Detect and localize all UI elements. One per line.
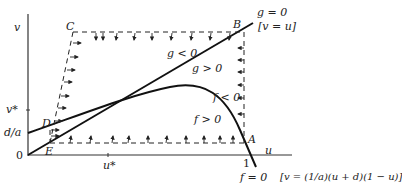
d-over-a-label: d/a <box>4 127 21 138</box>
flow-arrows-left <box>51 43 81 136</box>
f-null-equation: [v = (1/a)(u + d)(1 − u)] <box>280 172 402 182</box>
g-nullcline <box>28 23 253 155</box>
f-positive-label: f > 0 <box>194 114 221 125</box>
g-null-equation: [v = u] <box>258 21 296 32</box>
point-c-label: C <box>66 21 74 32</box>
v-star-label: v* <box>6 104 18 115</box>
trapping-region <box>50 32 244 143</box>
u-one-label: 1 <box>243 158 250 169</box>
point-b-label: B <box>233 19 241 30</box>
f-null-label: f = 0 <box>240 172 267 183</box>
flow-arrows-right <box>238 48 244 114</box>
g-negative-label: g < 0 <box>167 48 197 59</box>
point-a-label: A <box>248 134 256 145</box>
f-negative-label: f < 0 <box>213 92 240 103</box>
g-positive-label: g > 0 <box>192 63 222 74</box>
u-axis-label: u <box>265 145 272 156</box>
point-d-label: D <box>42 118 51 129</box>
point-e-label: E <box>45 146 53 157</box>
v-axis-label: v <box>14 22 20 33</box>
flow-arrows-bottom <box>70 136 233 143</box>
origin-label: 0 <box>16 150 23 161</box>
u-star-label: u* <box>103 160 116 171</box>
g-null-label: g = 0 <box>257 7 287 18</box>
flow-arrows-top <box>96 33 230 40</box>
